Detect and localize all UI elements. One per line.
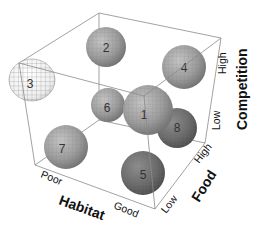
sphere-3: 3 [9, 59, 55, 101]
svg-text:6: 6 [104, 101, 111, 115]
competition-axis-label: Competition [234, 48, 250, 130]
competition-tick-low: Low [210, 110, 222, 130]
habitat-tick-poor: Poor [39, 168, 65, 188]
svg-text:2: 2 [103, 41, 110, 55]
svg-text:3: 3 [27, 77, 34, 91]
svg-text:7: 7 [59, 142, 66, 156]
sphere-4: 4 [162, 45, 206, 89]
sphere-6: 6 [91, 88, 125, 122]
sphere-7: 7 [44, 125, 88, 169]
competition-tick-high: High [216, 52, 228, 74]
sphere-2: 2 [86, 27, 126, 67]
svg-text:8: 8 [174, 121, 181, 135]
3d-bubble-chart: 2 4 3 7 6 8 1 5 [0, 0, 263, 236]
food-axis-label: Food [188, 167, 220, 204]
svg-text:5: 5 [140, 168, 147, 182]
habitat-axis-label: Habitat [57, 192, 107, 223]
food-tick-low: Low [158, 192, 180, 215]
sphere-5: 5 [121, 151, 165, 195]
food-tick-high: High [191, 141, 214, 166]
